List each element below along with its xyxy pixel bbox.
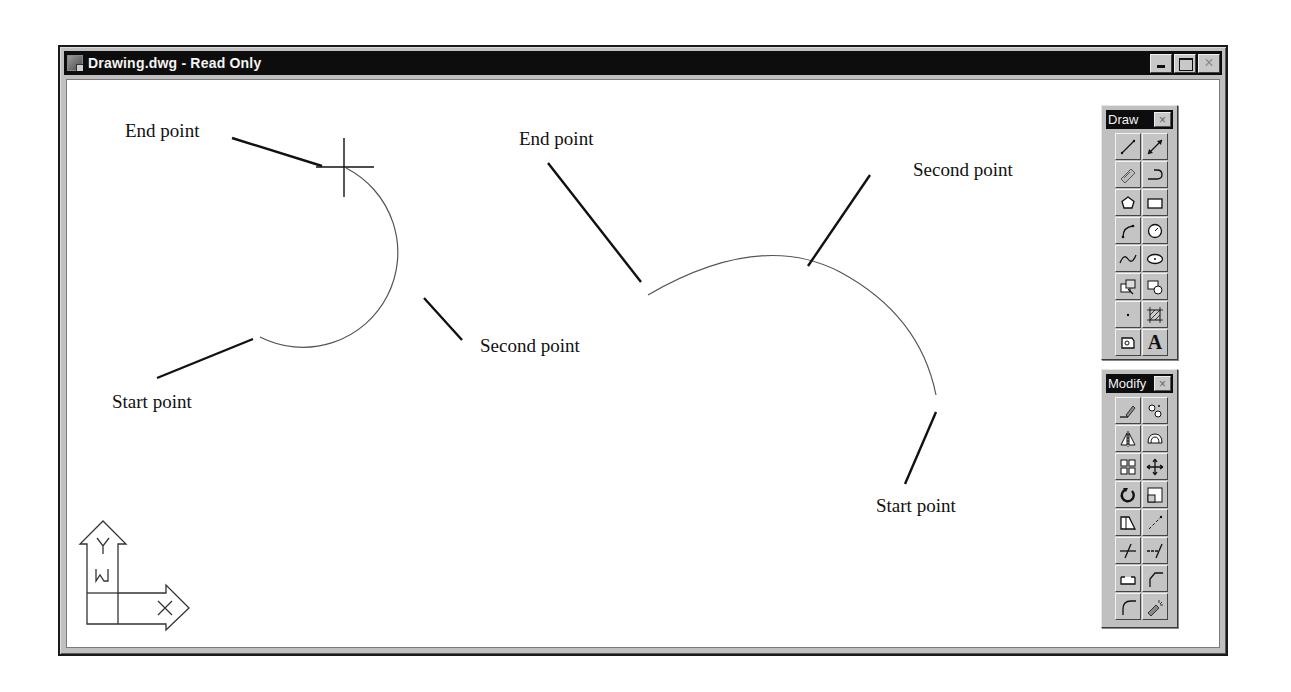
modify-explode-button[interactable] xyxy=(1142,593,1168,620)
modify-array-button[interactable] xyxy=(1115,453,1141,480)
modify-extend-button[interactable] xyxy=(1142,537,1168,564)
scale-icon xyxy=(1145,485,1165,505)
line-icon xyxy=(1118,137,1138,157)
drawing-canvas[interactable] xyxy=(66,79,1220,648)
close-button[interactable]: × xyxy=(1198,54,1220,73)
extend-icon xyxy=(1145,541,1165,561)
draw-arc-button[interactable] xyxy=(1115,217,1141,244)
draw-construction-line-button[interactable] xyxy=(1142,133,1168,160)
rectangle-icon xyxy=(1145,193,1165,213)
text-icon: A xyxy=(1148,331,1162,354)
draw-region-button[interactable] xyxy=(1115,329,1141,356)
draw-line-button[interactable] xyxy=(1115,133,1141,160)
ellipse-icon xyxy=(1145,249,1165,269)
break-icon xyxy=(1118,569,1138,589)
modify-lengthen-button[interactable] xyxy=(1142,509,1168,536)
draw-hatch-button[interactable] xyxy=(1142,301,1168,328)
modify-toolbar: Modify × xyxy=(1101,369,1178,628)
draw-toolbar-close-button[interactable]: × xyxy=(1154,112,1171,127)
modify-copy-button[interactable] xyxy=(1142,397,1168,424)
draw-multiline-button[interactable] xyxy=(1115,161,1141,188)
draw-rectangle-button[interactable] xyxy=(1142,189,1168,216)
modify-toolbar-title: Modify xyxy=(1108,376,1146,391)
draw-make-block-button[interactable] xyxy=(1142,273,1168,300)
draw-toolbar: Draw × xyxy=(1101,105,1178,360)
make-block-icon xyxy=(1145,277,1165,297)
erase-icon xyxy=(1118,401,1138,421)
stretch-icon xyxy=(1118,513,1138,533)
chamfer-icon xyxy=(1145,569,1165,589)
spline-icon xyxy=(1118,249,1138,269)
fillet-icon xyxy=(1118,597,1138,617)
draw-ellipse-button[interactable] xyxy=(1142,245,1168,272)
modify-erase-button[interactable] xyxy=(1115,397,1141,424)
drawing-window: Drawing.dwg - Read Only × xyxy=(58,45,1228,656)
offset-icon xyxy=(1145,429,1165,449)
insert-block-icon xyxy=(1118,277,1138,297)
polyline-icon xyxy=(1145,165,1165,185)
trim-icon xyxy=(1118,541,1138,561)
draw-multiline-text-button[interactable]: A xyxy=(1142,329,1168,356)
label-left-second-point: Second point xyxy=(480,335,580,357)
modify-toolbar-close-button[interactable]: × xyxy=(1154,376,1171,391)
maximize-button[interactable] xyxy=(1174,54,1196,73)
draw-insert-block-button[interactable] xyxy=(1115,273,1141,300)
modify-trim-button[interactable] xyxy=(1115,537,1141,564)
modify-rotate-button[interactable] xyxy=(1115,481,1141,508)
point-icon xyxy=(1118,305,1138,325)
region-icon xyxy=(1118,333,1138,353)
minimize-button[interactable] xyxy=(1150,54,1172,73)
label-right-second-point: Second point xyxy=(913,159,1013,181)
app-icon[interactable] xyxy=(67,55,83,71)
label-right-start-point: Start point xyxy=(876,495,956,517)
draw-tools: A xyxy=(1115,133,1169,356)
label-right-end-point: End point xyxy=(519,128,593,150)
draw-toolbar-title-bar[interactable]: Draw × xyxy=(1106,110,1173,129)
copy-icon xyxy=(1145,401,1165,421)
hatch-icon xyxy=(1145,305,1165,325)
array-icon xyxy=(1118,457,1138,477)
draw-circle-button[interactable] xyxy=(1142,217,1168,244)
explode-icon xyxy=(1145,597,1165,617)
title-bar[interactable]: Drawing.dwg - Read Only × xyxy=(64,51,1222,75)
modify-tools xyxy=(1115,397,1169,620)
lengthen-icon xyxy=(1145,513,1165,533)
modify-break-button[interactable] xyxy=(1115,565,1141,592)
arc-icon xyxy=(1118,221,1138,241)
draw-polyline-button[interactable] xyxy=(1142,161,1168,188)
draw-toolbar-title: Draw xyxy=(1108,112,1138,127)
label-left-end-point: End point xyxy=(125,120,199,142)
circle-icon xyxy=(1145,221,1165,241)
window-controls: × xyxy=(1148,54,1220,73)
construction-line-icon xyxy=(1145,137,1165,157)
window-title: Drawing.dwg - Read Only xyxy=(88,55,261,71)
modify-chamfer-button[interactable] xyxy=(1142,565,1168,592)
draw-polygon-button[interactable] xyxy=(1115,189,1141,216)
modify-stretch-button[interactable] xyxy=(1115,509,1141,536)
mirror-icon xyxy=(1118,429,1138,449)
modify-scale-button[interactable] xyxy=(1142,481,1168,508)
modify-mirror-button[interactable] xyxy=(1115,425,1141,452)
move-icon xyxy=(1145,457,1165,477)
rotate-icon xyxy=(1118,485,1138,505)
multiline-icon xyxy=(1118,165,1138,185)
polygon-icon xyxy=(1118,193,1138,213)
modify-offset-button[interactable] xyxy=(1142,425,1168,452)
modify-move-button[interactable] xyxy=(1142,453,1168,480)
draw-spline-button[interactable] xyxy=(1115,245,1141,272)
label-left-start-point: Start point xyxy=(112,391,192,413)
modify-fillet-button[interactable] xyxy=(1115,593,1141,620)
draw-point-button[interactable] xyxy=(1115,301,1141,328)
modify-toolbar-title-bar[interactable]: Modify × xyxy=(1106,374,1173,393)
